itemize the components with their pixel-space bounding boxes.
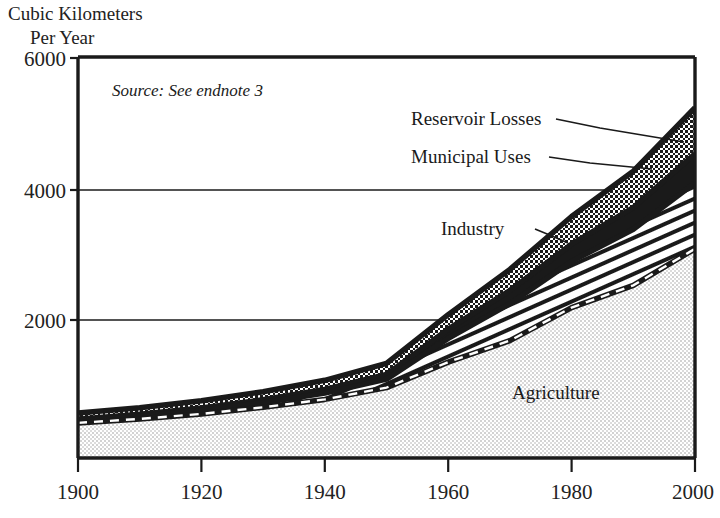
y-tick-label-6000: 6000 [24,47,66,71]
series-label-municipal-uses: Municipal Uses [411,146,531,167]
water-use-stacked-area-chart: Cubic Kilometers Per Year [0,0,720,518]
y-axis-title-line2: Per Year [30,27,95,48]
series-label-reservoir-losses: Reservoir Losses [411,108,541,129]
chart-container: Cubic Kilometers Per Year [0,0,720,518]
source-annotation: Source: See endnote 3 [112,81,263,100]
y-tick-label-4000: 4000 [24,179,66,203]
y-axis-title-line1: Cubic Kilometers [8,3,143,24]
x-tick-label-1940: 1940 [304,480,346,504]
x-tick-label-1980: 1980 [551,480,593,504]
y-tick-label-2000: 2000 [24,309,66,333]
x-tick-label-1960: 1960 [427,480,469,504]
series-label-industry: Industry [441,218,505,239]
x-tick-label-2000: 2000 [672,480,714,504]
x-tick-label-1920: 1920 [180,480,222,504]
x-tick-label-1900: 1900 [57,480,99,504]
series-label-agriculture: Agriculture [512,382,600,403]
